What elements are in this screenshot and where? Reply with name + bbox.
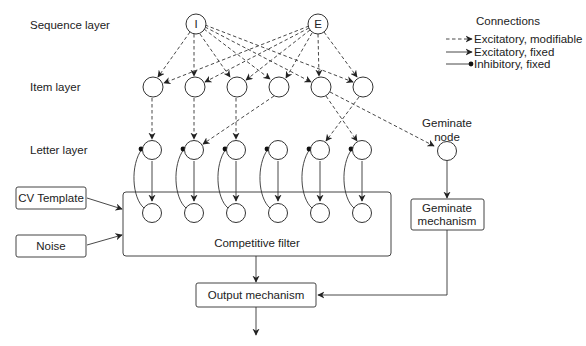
- item-layer-nodes: [143, 77, 373, 97]
- svg-text:I: I: [194, 18, 197, 30]
- letter-node: [353, 141, 372, 160]
- letter-node: [143, 141, 162, 160]
- item-node: [353, 77, 373, 97]
- item-to-letter-connections: [152, 92, 434, 146]
- filter-node: [185, 204, 204, 223]
- item-node: [143, 77, 163, 97]
- item-node: [311, 77, 331, 97]
- item-node: [269, 77, 289, 97]
- item-node: [185, 77, 205, 97]
- competitive-filter-label: Competitive filter: [214, 237, 300, 249]
- letter-layer-label: Letter layer: [30, 144, 88, 156]
- svg-text:Excitatory, modifiable: Excitatory, modifiable: [474, 33, 582, 45]
- svg-text:Output mechanism: Output mechanism: [208, 289, 305, 301]
- sequence-layer-label: Sequence layer: [30, 19, 110, 31]
- sequence-node-i: I: [186, 14, 206, 34]
- svg-text:Excitatory, fixed: Excitatory, fixed: [474, 46, 554, 58]
- svg-text:mechanism: mechanism: [418, 215, 477, 227]
- filter-node: [143, 204, 162, 223]
- letter-node: [185, 141, 204, 160]
- svg-text:Inhibitory, fixed: Inhibitory, fixed: [474, 58, 551, 70]
- item-node: [227, 77, 247, 97]
- filter-node: [353, 204, 372, 223]
- filter-node: [311, 204, 330, 223]
- letter-node: [269, 141, 288, 160]
- geminate-node: [438, 142, 457, 161]
- svg-text:E: E: [314, 18, 322, 30]
- filter-node: [227, 204, 246, 223]
- letter-node: [311, 141, 330, 160]
- letter-layer-nodes: [143, 141, 372, 160]
- legend: Connections Excitatory, modifiable Excit…: [446, 15, 582, 70]
- network-diagram: Sequence layer Item layer Letter layer C…: [0, 0, 586, 346]
- item-layer-label: Item layer: [30, 81, 81, 93]
- sequence-node-e: E: [308, 14, 328, 34]
- svg-text:CV Template: CV Template: [18, 192, 84, 204]
- svg-text:Geminate: Geminate: [422, 202, 472, 214]
- geminate-node-label-1: Geminate: [422, 117, 472, 129]
- svg-text:Noise: Noise: [36, 240, 65, 252]
- svg-text:Connections: Connections: [476, 15, 540, 27]
- sequence-to-item-connections: [158, 25, 357, 83]
- letter-node: [227, 141, 246, 160]
- filter-node: [269, 204, 288, 223]
